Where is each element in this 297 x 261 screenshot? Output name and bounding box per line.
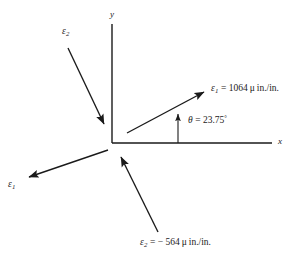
label-epsilon-2-value: ε2= − 564μin./in. <box>140 238 211 249</box>
theta-value-text: = 23.75 <box>193 115 225 125</box>
diagram-canvas <box>0 0 297 261</box>
label-epsilon-1-opposite: ε1 <box>8 180 15 191</box>
strain-vector-diagram: y x ε2 ε1 ε1= 1064μin./in. θ= 23.75° ε2=… <box>0 0 297 261</box>
label-epsilon-2-opposite: ε2 <box>62 27 69 38</box>
micro-symbol: μ <box>248 83 255 93</box>
vector-epsilon-1-primary <box>127 92 204 133</box>
epsilon-subscript: 1 <box>12 183 16 190</box>
epsilon-2-value-text: = − 564 <box>147 237 179 247</box>
epsilon-1-value-text: = 1064 <box>218 83 247 93</box>
theta-symbol: θ <box>188 115 193 125</box>
epsilon-1-unit: in./in. <box>255 83 279 93</box>
vector-epsilon-1-opposite <box>29 150 108 177</box>
label-angle-theta: θ= 23.75° <box>188 115 227 125</box>
degree-symbol: ° <box>224 114 227 121</box>
y-axis-label: y <box>110 10 114 19</box>
vector-epsilon-2-primary <box>121 157 158 232</box>
label-epsilon-1-value: ε1= 1064μin./in. <box>211 84 279 95</box>
x-axis-label: x <box>278 137 282 146</box>
vector-epsilon-2-opposite <box>68 48 104 124</box>
epsilon-2-unit: in./in. <box>187 237 211 247</box>
micro-symbol: μ <box>180 237 187 247</box>
epsilon-subscript: 2 <box>66 30 70 37</box>
